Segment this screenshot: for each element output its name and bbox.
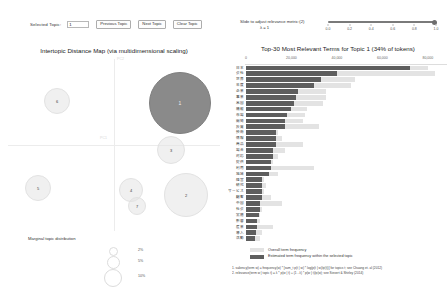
slider-track[interactable] — [328, 21, 436, 23]
marginal-distribution-legend: 2%5%10% — [90, 246, 150, 286]
map-pc2-label: PC2 — [117, 57, 124, 61]
legend-item-topic: Estimated term frequency within the sele… — [250, 254, 440, 261]
marginal-topic-distribution: Marginal topic distribution 2%5%10% — [28, 236, 148, 241]
slider-tick-label: 0.4 — [369, 27, 374, 31]
barchart-bars: 日本会社世界年度企業事業米国機能市場開発投資技術情報商品場合対応提供利用地域経営… — [228, 65, 448, 242]
previous-topic-button[interactable]: Previous Topic — [96, 20, 131, 29]
bar-topic-frequency — [246, 124, 285, 129]
topic-bubble-label: 6 — [56, 99, 58, 104]
topic-selector-group: Selected Topic: 1 Previous Topic Next To… — [30, 20, 202, 29]
bar-topic-frequency — [246, 107, 291, 112]
slider-tick-label: 0.2 — [347, 27, 352, 31]
slider-tickmark — [371, 24, 372, 26]
barchart-term-label[interactable]: 米国 — [228, 101, 244, 105]
barchart-term-label[interactable]: サービス — [228, 189, 244, 193]
topic-bubble-label: 5 — [37, 186, 39, 191]
slider-tick-labels: 0.00.20.40.60.81.0 — [328, 24, 436, 33]
barchart-term-label[interactable]: 会社 — [228, 71, 244, 75]
barchart-term-label[interactable]: 日本 — [228, 66, 244, 70]
barchart-term-label[interactable]: 開発 — [228, 119, 244, 123]
barchart-term-label[interactable]: 提供 — [228, 160, 244, 164]
barchart-term-label[interactable]: 年度 — [228, 83, 244, 87]
barchart-legend: Overall term frequency Estimated term fr… — [250, 247, 440, 260]
barchart-term-label[interactable]: 対応 — [228, 154, 244, 158]
topic-bubble-7[interactable]: 7 — [128, 197, 146, 215]
barchart-term-label[interactable]: 利用 — [228, 166, 244, 170]
relevance-slider-group: Slide to adjust relevance metric:(2) λ =… — [238, 19, 443, 30]
slider-tickmark — [414, 24, 415, 26]
topic-bubble-label: 4 — [130, 188, 132, 193]
footnotes: 1. saliency(term w) = frequency(w) * [su… — [232, 266, 446, 276]
barchart-term-label[interactable]: 技術 — [228, 130, 244, 134]
topic-bubble-1[interactable]: 1 — [149, 72, 211, 134]
topic-bubble-6[interactable]: 6 — [44, 88, 70, 114]
bar-topic-frequency — [246, 236, 255, 241]
barchart-term-label[interactable]: 事業 — [228, 95, 244, 99]
intertopic-distance-map[interactable]: PC2 PC1 1234567 — [0, 55, 228, 235]
slider-tick-label: 0.8 — [412, 27, 417, 31]
map-pc1-label: PC1 — [100, 136, 107, 140]
bar-topic-frequency — [246, 113, 287, 118]
barchart-row[interactable]: 活動 — [228, 236, 448, 242]
footnote-relevance: 2. relevance(term w | topic t) = λ * p(w… — [232, 271, 446, 276]
barchart-term-label[interactable]: 活動 — [228, 236, 244, 240]
barchart-x-tick: 0 — [245, 56, 247, 60]
bar-topic-frequency — [246, 66, 410, 71]
topic-bubble-label: 1 — [179, 100, 182, 106]
topic-bubble-label: 7 — [136, 204, 138, 209]
topic-bubble-label: 2 — [185, 193, 187, 198]
top-control-bar: Selected Topic: 1 Previous Topic Next To… — [0, 0, 448, 40]
barchart-term-label[interactable]: 投資 — [228, 125, 244, 129]
marginal-legend-circle — [104, 269, 122, 287]
bar-topic-frequency — [246, 207, 260, 212]
barchart-term-label[interactable]: 地域 — [228, 172, 244, 176]
bar-topic-frequency — [246, 172, 269, 177]
topic-bubble-3[interactable]: 3 — [157, 136, 185, 164]
bar-topic-frequency — [246, 230, 256, 235]
barchart-term-label[interactable]: 企業 — [228, 89, 244, 93]
marginal-legend-label: 2% — [138, 248, 143, 252]
barchart-term-label[interactable]: 影響 — [228, 219, 244, 223]
bar-topic-frequency — [246, 119, 285, 124]
bar-topic-frequency — [246, 219, 257, 224]
barchart-term-label[interactable]: 中国 — [228, 201, 244, 205]
barchart-term-label[interactable]: 市場 — [228, 113, 244, 117]
bar-topic-frequency — [246, 95, 296, 100]
bar-topic-frequency — [246, 225, 257, 230]
barchart-term-label[interactable]: 産業 — [228, 225, 244, 229]
pyldavis-app: Selected Topic: 1 Previous Topic Next To… — [0, 0, 448, 293]
barchart-x-tick: 60,000 — [377, 56, 388, 60]
barchart-term-label[interactable]: 商品 — [228, 142, 244, 146]
barchart-term-label[interactable]: 導入 — [228, 231, 244, 235]
slider-tick-label: 0.6 — [390, 27, 395, 31]
bar-topic-frequency — [246, 71, 337, 76]
selected-topic-input[interactable]: 1 — [67, 21, 89, 28]
relevance-slider[interactable]: 0.00.20.40.60.81.0 — [328, 21, 438, 33]
clear-topic-button[interactable]: Clear Topic — [173, 20, 202, 29]
topic-bubble-label: 3 — [170, 148, 172, 153]
barchart-title: Top-30 Most Relevant Terms for Topic 1 (… — [228, 45, 448, 52]
barchart-term-label[interactable]: 経営 — [228, 178, 244, 182]
slider-tickmark — [392, 24, 393, 26]
barchart-x-tick: 80,000 — [422, 56, 433, 60]
bar-topic-frequency — [246, 177, 262, 182]
topic-bubble-5[interactable]: 5 — [25, 175, 51, 201]
barchart-term-label[interactable]: 研究 — [228, 183, 244, 187]
bar-topic-frequency — [246, 77, 321, 82]
next-topic-button[interactable]: Next Topic — [138, 20, 165, 29]
barchart-term-label[interactable]: 情報 — [228, 136, 244, 140]
map-y-axis — [114, 59, 115, 231]
legend-swatch-topic — [250, 255, 264, 259]
barchart-term-label[interactable]: 実施 — [228, 213, 244, 217]
barchart-term-label[interactable]: 顧客 — [228, 195, 244, 199]
barchart-term-label[interactable]: 場合 — [228, 148, 244, 152]
marginal-distribution-title: Marginal topic distribution — [28, 236, 148, 241]
barchart-term-label[interactable]: 世界 — [228, 77, 244, 81]
barchart-term-label[interactable]: 機能 — [228, 107, 244, 111]
slider-tick-label: 0.0 — [326, 27, 331, 31]
selected-topic-label: Selected Topic: — [30, 22, 61, 27]
bar-topic-frequency — [246, 195, 262, 200]
barchart-term-label[interactable]: 社会 — [228, 207, 244, 211]
topic-bubble-2[interactable]: 2 — [164, 173, 208, 217]
bar-topic-frequency — [246, 154, 273, 159]
